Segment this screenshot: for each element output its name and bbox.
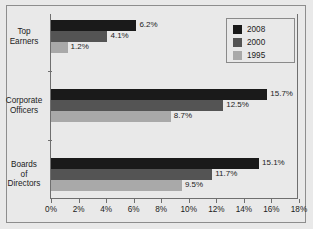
category-label-line: Top xyxy=(1,27,47,37)
bar-chart: 6.2%4.1%1.2%15.7%12.5%8.7%15.1%11.7%9.5%… xyxy=(0,0,313,229)
legend-item: 1995 xyxy=(233,49,294,61)
bar-row: 9.5% xyxy=(51,180,297,191)
category-label-line: Boards xyxy=(1,160,47,170)
x-axis-tick-label: 6% xyxy=(128,205,140,214)
bar-1995 xyxy=(51,111,171,122)
bar-row: 11.7% xyxy=(51,169,297,180)
x-axis-tick xyxy=(134,199,135,203)
x-axis-tick xyxy=(189,199,190,203)
x-axis-tick-label: 16% xyxy=(263,205,279,214)
x-axis-tick-label: 10% xyxy=(181,205,197,214)
bar-1995 xyxy=(51,180,182,191)
category-label-line: Directors xyxy=(1,179,47,189)
x-axis-tick-label: 18% xyxy=(291,205,307,214)
category-label: TopEarners xyxy=(1,27,47,46)
category-label-line: Earners xyxy=(1,37,47,47)
bar-value-label: 9.5% xyxy=(185,179,203,190)
legend-label: 2008 xyxy=(247,25,265,34)
category-label-line: Corporate xyxy=(1,96,47,106)
x-axis-tick xyxy=(106,199,107,203)
bar-value-label: 6.2% xyxy=(139,19,157,30)
x-axis-tick-label: 2% xyxy=(73,205,85,214)
bar-row: 8.7% xyxy=(51,111,297,122)
legend-swatch-1995 xyxy=(233,51,242,60)
bar-2000 xyxy=(51,100,223,111)
bar-group: 15.1%11.7%9.5% xyxy=(51,158,297,191)
bar-value-label: 15.1% xyxy=(262,157,285,168)
category-label-line: of xyxy=(1,170,47,180)
bar-1995 xyxy=(51,42,68,53)
legend-swatch-2008 xyxy=(233,25,242,34)
x-axis-tick-label: 14% xyxy=(236,205,252,214)
y-axis-tick xyxy=(48,71,52,72)
category-label: BoardsofDirectors xyxy=(1,160,47,189)
x-axis-tick-label: 0% xyxy=(45,205,57,214)
bar-row: 15.7% xyxy=(51,89,297,100)
bar-value-label: 15.7% xyxy=(270,88,293,99)
x-axis-tick xyxy=(299,199,300,203)
chart-legend: 200820001995 xyxy=(226,18,295,63)
bar-value-label: 4.1% xyxy=(110,30,128,41)
legend-item: 2008 xyxy=(233,23,294,35)
bar-group: 15.7%12.5%8.7% xyxy=(51,89,297,122)
bar-row: 15.1% xyxy=(51,158,297,169)
legend-label: 2000 xyxy=(247,38,265,47)
y-axis-tick xyxy=(48,140,52,141)
x-axis-tick xyxy=(51,199,52,203)
legend-swatch-2000 xyxy=(233,38,242,47)
bar-value-label: 1.2% xyxy=(71,41,89,52)
x-axis-tick xyxy=(79,199,80,203)
x-axis-tick xyxy=(161,199,162,203)
category-label-line: Officers xyxy=(1,106,47,116)
legend-label: 1995 xyxy=(247,51,265,60)
bar-value-label: 11.7% xyxy=(215,168,237,179)
x-axis-tick-label: 12% xyxy=(208,205,224,214)
legend-item: 2000 xyxy=(233,36,294,48)
bar-value-label: 8.7% xyxy=(174,110,192,121)
x-axis-tick xyxy=(244,199,245,203)
x-axis-tick xyxy=(216,199,217,203)
x-axis-tick-label: 4% xyxy=(100,205,112,214)
x-axis-tick xyxy=(271,199,272,203)
category-label: CorporateOfficers xyxy=(1,96,47,115)
x-axis-tick-label: 8% xyxy=(155,205,167,214)
bar-value-label: 12.5% xyxy=(226,99,249,110)
